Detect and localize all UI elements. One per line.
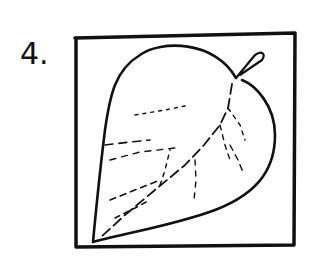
leaf-stem [236,53,264,78]
midrib [100,84,232,238]
leaf-drawing [0,0,320,267]
frame [75,33,295,247]
